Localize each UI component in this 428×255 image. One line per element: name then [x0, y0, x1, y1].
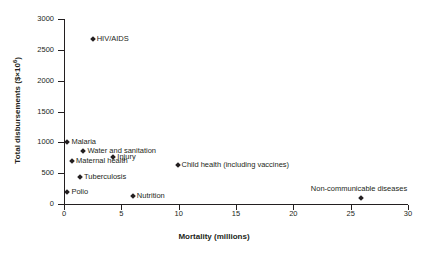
x-axis-title: Mortality (millions)	[0, 232, 428, 241]
x-tick-label: 15	[221, 210, 251, 218]
data-point-marker	[81, 148, 87, 154]
data-point-label: HIV/AIDS	[97, 35, 129, 43]
y-tick-label: 500	[14, 169, 54, 177]
y-axis-title-exponent: 6	[12, 60, 18, 63]
data-point-label: Nutrition	[137, 192, 165, 200]
data-point-marker	[65, 139, 71, 145]
y-tick-label: 1000	[14, 138, 54, 146]
data-point-marker	[69, 159, 75, 165]
data-point-marker	[90, 36, 96, 42]
data-point-label: Polio	[71, 188, 88, 196]
y-tick	[58, 112, 64, 113]
x-tick-label: 30	[393, 210, 423, 218]
data-point-marker	[130, 193, 136, 199]
y-tick	[58, 142, 64, 143]
data-point-marker	[175, 162, 181, 168]
data-point-label: Maternal health	[76, 157, 128, 165]
y-tick-label: 2500	[14, 46, 54, 54]
x-tick-label: 0	[49, 210, 79, 218]
x-tick-label: 5	[106, 210, 136, 218]
y-tick-label: 2000	[14, 77, 54, 85]
x-tick-label: 10	[164, 210, 194, 218]
y-axis-line	[64, 19, 65, 205]
data-point-label: Non-communicable diseases	[311, 185, 407, 193]
data-point-label: Child health (including vaccines)	[182, 161, 290, 169]
data-point-marker	[77, 174, 83, 180]
scatter-chart: Total disbursements ($×106) 050010001500…	[0, 0, 428, 255]
y-tick	[58, 19, 64, 20]
data-point-marker	[358, 196, 364, 202]
x-tick-label: 20	[278, 210, 308, 218]
y-tick-label: 3000	[14, 15, 54, 23]
y-tick	[58, 173, 64, 174]
y-tick-label: 0	[14, 200, 54, 208]
y-tick-label: 1500	[14, 108, 54, 116]
data-point-label: Tuberculosis	[84, 173, 126, 181]
y-tick	[58, 81, 64, 82]
x-tick-label: 25	[336, 210, 366, 218]
data-point-marker	[65, 189, 71, 195]
y-tick	[58, 50, 64, 51]
y-axis-title-suffix: )	[13, 57, 22, 60]
